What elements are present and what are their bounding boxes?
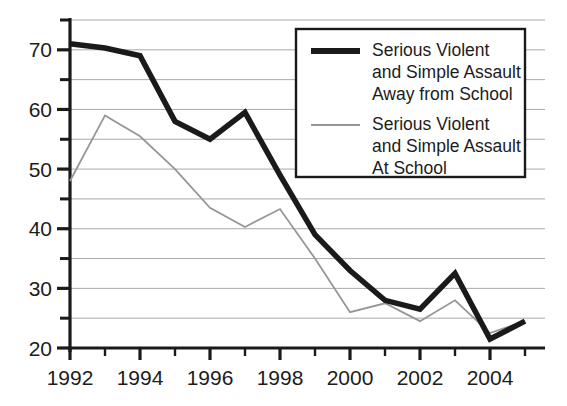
legend-label-line: Away from School <box>372 84 513 104</box>
x-axis-tick-label: 1992 <box>47 366 94 389</box>
x-axis-tick-label: 1998 <box>257 366 304 389</box>
x-axis-tick-label: 2002 <box>397 366 444 389</box>
x-axis-tick-label: 1994 <box>117 366 164 389</box>
x-axis-tick-label: 1996 <box>187 366 234 389</box>
x-axis-tick-label: 2004 <box>467 366 514 389</box>
line-chart: 203040506070 199219941996199820002002200… <box>0 0 567 406</box>
y-axis-tick-label: 50 <box>29 158 52 181</box>
y-axis-tick-label: 20 <box>29 337 52 360</box>
y-axis-tick-label: 70 <box>29 38 52 61</box>
legend-label-line: and Simple Assault <box>372 62 521 82</box>
y-axis-tick-label: 40 <box>29 217 52 240</box>
x-axis-tick-label: 2000 <box>327 366 374 389</box>
legend-label-line: At School <box>372 158 447 178</box>
legend-label-line: Serious Violent <box>372 114 490 134</box>
chart-legend: Serious Violentand Simple AssaultAway fr… <box>296 29 525 178</box>
y-axis-tick-label: 60 <box>29 98 52 121</box>
chart-canvas: 203040506070 199219941996199820002002200… <box>0 0 567 406</box>
y-axis-tick-label: 30 <box>29 277 52 300</box>
legend-label-line: Serious Violent <box>372 40 490 60</box>
legend-label-line: and Simple Assault <box>372 136 521 156</box>
